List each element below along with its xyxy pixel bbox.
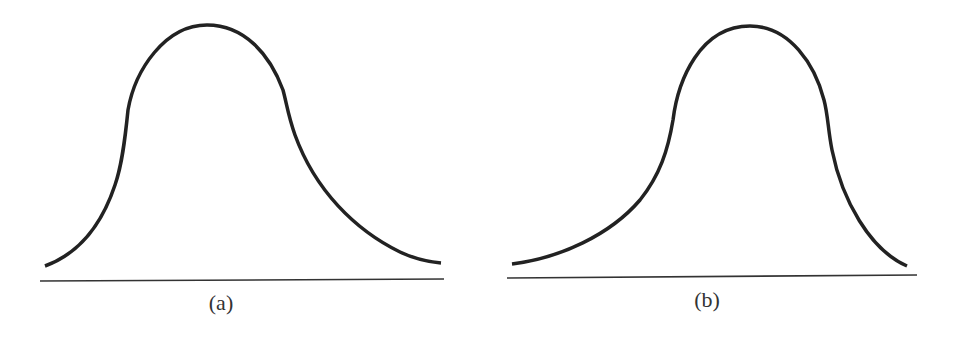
panel-b [507, 26, 917, 278]
panel-b-baseline [507, 275, 917, 278]
panel-a-curve [45, 25, 441, 266]
panel-b-label: (b) [694, 287, 720, 313]
panel-a-baseline [40, 279, 444, 281]
panel-a [40, 25, 444, 281]
panel-b-curve [512, 26, 907, 266]
panel-a-label: (a) [209, 290, 233, 316]
skewness-diagram [0, 0, 959, 343]
